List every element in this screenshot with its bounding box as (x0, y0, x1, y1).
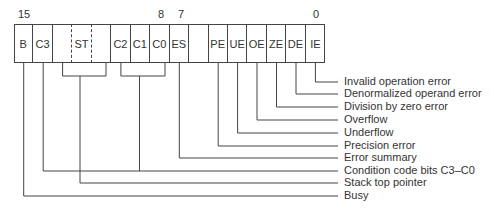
legend-precision: Precision error (344, 139, 416, 151)
legend-condition-codes: Condition code bits C3–C0 (344, 164, 475, 176)
legend-underflow: Underflow (344, 126, 394, 138)
legend-error-summary: Error summary (344, 151, 417, 163)
connector-st (80, 76, 338, 183)
bracket-c2-c0 (121, 63, 165, 76)
connector-es (179, 63, 338, 158)
legend-overflow: Overflow (344, 113, 387, 125)
connector-c3 (43, 63, 338, 171)
legend-stack-top: Stack top pointer (344, 176, 427, 188)
connector-ze (277, 63, 339, 107)
connector-pe (218, 63, 338, 146)
fpu-status-word-diagram: 15 8 7 0 B C3 ST C2 C1 C0 ES PE UE OE ZE… (0, 0, 494, 211)
connector-de (296, 63, 338, 94)
connector-oe (257, 63, 338, 120)
legend-division-by-zero: Division by zero error (344, 100, 448, 112)
connector-b (24, 63, 338, 196)
connector-ie (315, 63, 338, 82)
connector-ue (238, 63, 338, 133)
legend-busy: Busy (344, 189, 368, 201)
legend-invalid-operation: Invalid operation error (344, 75, 451, 87)
legend-denormalized-operand: Denormalized operand error (344, 87, 482, 99)
bracket-st (63, 63, 106, 76)
